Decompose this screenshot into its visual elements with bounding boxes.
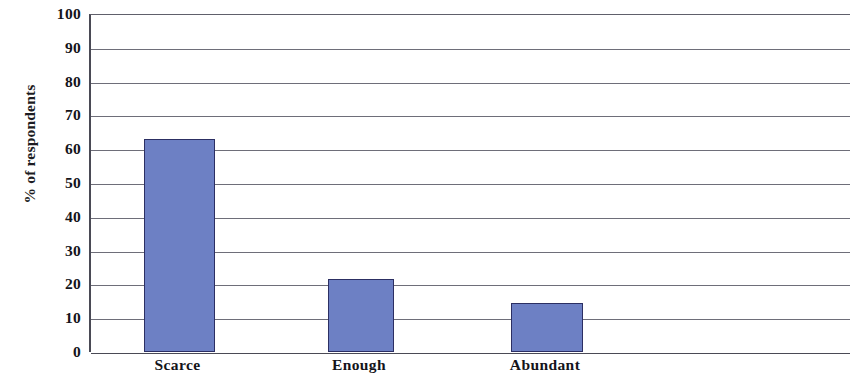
plot-area bbox=[89, 14, 850, 352]
x-tick-label-scarce: Scarce bbox=[154, 356, 200, 374]
bar-chart-figure: % of respondents 0102030405060708090100 … bbox=[0, 0, 850, 383]
x-tick-label-enough: Enough bbox=[332, 356, 386, 374]
y-tick-label: 70 bbox=[20, 108, 81, 124]
x-axis-category-labels: ScarceEnoughAbundant bbox=[89, 356, 850, 383]
x-tick-label-abundant: Abundant bbox=[510, 356, 580, 374]
bar-abundant[interactable] bbox=[511, 303, 583, 352]
bar-scarce[interactable] bbox=[144, 139, 215, 352]
y-tick-label: 10 bbox=[20, 310, 81, 326]
y-tick-label: 20 bbox=[20, 277, 81, 293]
y-tick-label: 50 bbox=[20, 175, 81, 191]
y-tick-label: 100 bbox=[20, 6, 81, 22]
y-tick-label: 60 bbox=[20, 141, 81, 157]
gridline bbox=[91, 353, 850, 354]
bars-layer bbox=[91, 15, 850, 352]
y-tick-label: 30 bbox=[20, 243, 81, 259]
y-tick-label: 40 bbox=[20, 209, 81, 225]
bar-enough[interactable] bbox=[328, 279, 394, 352]
y-tick-label: 90 bbox=[20, 40, 81, 56]
y-tick-label: 80 bbox=[20, 74, 81, 90]
y-tick-label: 0 bbox=[20, 344, 81, 360]
y-axis-tick-labels: 0102030405060708090100 bbox=[20, 14, 81, 352]
